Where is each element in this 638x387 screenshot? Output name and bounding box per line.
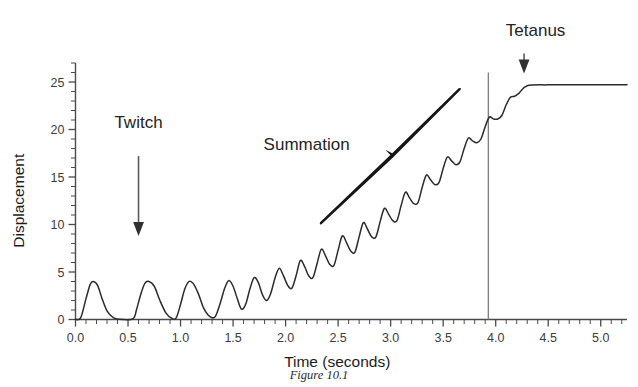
tetanus-arrow-head <box>519 59 530 73</box>
x-tick-label: 1.5 <box>224 331 241 345</box>
x-tick-label: 1.0 <box>172 331 189 345</box>
x-tick-label: 3.0 <box>382 331 399 345</box>
summation-brace <box>320 88 461 225</box>
y-axis-tick-labels: 0510152025 <box>51 76 65 328</box>
x-tick-label: 5.0 <box>592 331 609 345</box>
x-axis-major-ticks <box>76 320 601 327</box>
x-tick-label: 0.5 <box>119 331 136 345</box>
y-tick-label: 5 <box>58 266 65 280</box>
y-axis-major-ticks <box>69 82 76 320</box>
tetanus-label: Tetanus <box>506 21 566 40</box>
annotation-summation: Summation <box>264 88 461 225</box>
y-tick-label: 25 <box>51 76 65 90</box>
x-tick-label: 3.5 <box>434 331 451 345</box>
x-tick-label: 0.0 <box>67 331 84 345</box>
figure-caption: Figure 10.1 <box>289 368 349 382</box>
figure-container: 0510152025 0.00.51.01.52.02.53.03.54.04.… <box>0 0 638 387</box>
x-tick-label: 2.5 <box>329 331 346 345</box>
x-axis-tick-labels: 0.00.51.01.52.02.53.03.54.04.55.0 <box>67 331 610 345</box>
y-tick-label: 10 <box>51 218 65 232</box>
twitch-arrow-head <box>133 222 144 236</box>
twitch-label: Twitch <box>114 113 162 132</box>
y-tick-label: 20 <box>51 123 65 137</box>
annotation-twitch: Twitch <box>114 113 162 236</box>
y-tick-label: 15 <box>51 171 65 185</box>
muscle-contraction-chart: 0510152025 0.00.51.01.52.02.53.03.54.04.… <box>0 0 638 387</box>
summation-label: Summation <box>264 135 350 154</box>
y-axis-title: Displacement <box>10 153 27 248</box>
x-axis-title: Time (seconds) <box>284 353 390 370</box>
x-tick-label: 4.5 <box>540 331 557 345</box>
y-tick-label: 0 <box>58 313 65 327</box>
x-tick-label: 2.0 <box>277 331 294 345</box>
x-tick-label: 4.0 <box>487 331 504 345</box>
chart-axes: 0510152025 0.00.51.01.52.02.53.03.54.04.… <box>51 63 627 345</box>
annotation-tetanus: Tetanus <box>506 21 566 73</box>
